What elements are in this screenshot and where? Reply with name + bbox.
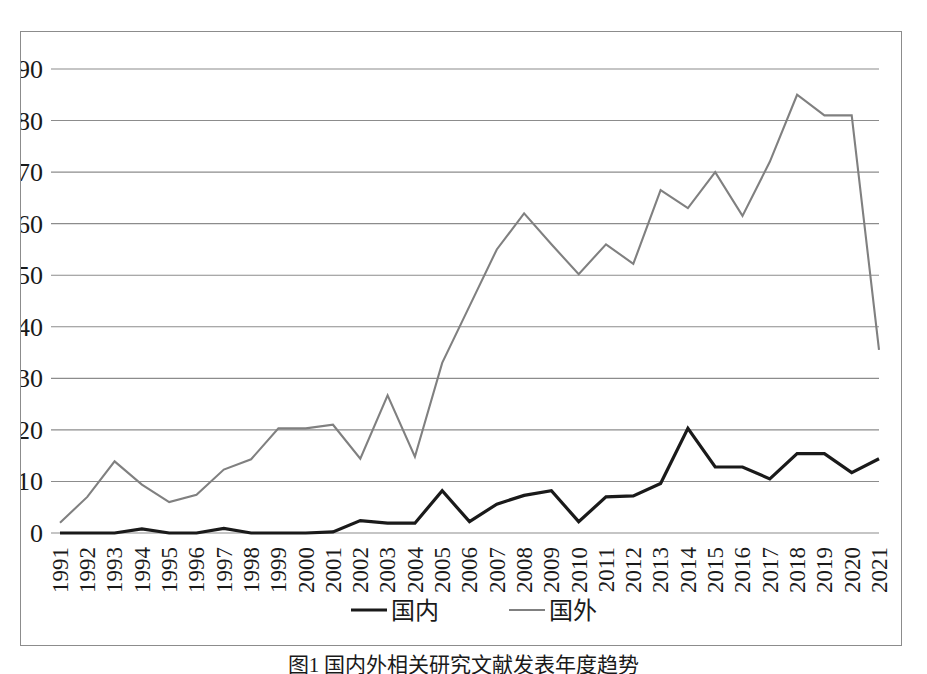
x-axis-tick-label: 1991 bbox=[48, 547, 73, 593]
x-axis-tick-label: 2014 bbox=[676, 547, 701, 594]
y-axis-tick-label: 40 bbox=[21, 313, 43, 342]
x-axis-tick-label: 1999 bbox=[266, 547, 291, 593]
y-axis-tick-label: 0 bbox=[30, 519, 43, 548]
x-axis-tick-label: 2003 bbox=[375, 547, 400, 593]
y-axis-tick-label: 60 bbox=[21, 210, 43, 239]
x-axis-tick-label: 1996 bbox=[184, 547, 209, 593]
legend-label-国外[interactable]: 国外 bbox=[549, 598, 597, 624]
y-axis-tick-label: 20 bbox=[21, 416, 43, 445]
x-axis-tick-label: 1998 bbox=[239, 547, 264, 593]
figure-container: 0102030405060708090199119921993199419951… bbox=[0, 0, 927, 674]
x-axis-tick-label: 2019 bbox=[812, 547, 837, 593]
y-axis-tick-label: 70 bbox=[21, 158, 43, 187]
x-axis-tick-label: 2002 bbox=[348, 547, 373, 593]
x-axis-tick-label: 2011 bbox=[594, 547, 619, 592]
x-axis-tick-label: 2009 bbox=[539, 547, 564, 593]
y-axis-tick-label: 10 bbox=[21, 467, 43, 496]
x-axis-tick-label: 2013 bbox=[648, 547, 673, 593]
x-axis-tick-label: 2015 bbox=[703, 547, 728, 593]
chart-frame: 0102030405060708090199119921993199419951… bbox=[20, 31, 902, 646]
y-axis-tick-label: 90 bbox=[21, 55, 43, 84]
x-axis-tick-label: 2001 bbox=[321, 547, 346, 593]
x-axis-tick-label: 2006 bbox=[457, 547, 482, 593]
y-axis-tick-label: 50 bbox=[21, 261, 43, 290]
x-axis-tick-label: 2005 bbox=[430, 547, 455, 593]
x-axis-tick-label: 2007 bbox=[485, 547, 510, 593]
series-line-国外 bbox=[60, 95, 879, 523]
x-axis-tick-label: 1995 bbox=[157, 547, 182, 593]
x-axis-tick-label: 1993 bbox=[102, 547, 127, 593]
line-chart: 0102030405060708090199119921993199419951… bbox=[21, 32, 901, 645]
x-axis-tick-label: 1997 bbox=[212, 547, 237, 593]
x-axis-tick-label: 2008 bbox=[512, 547, 537, 593]
legend-label-国内[interactable]: 国内 bbox=[391, 598, 439, 624]
x-axis-tick-label: 2016 bbox=[730, 547, 755, 593]
x-axis-tick-label: 2020 bbox=[840, 547, 865, 593]
figure-caption: 图1 国内外相关研究文献发表年度趋势 bbox=[0, 650, 927, 674]
y-axis-tick-label: 30 bbox=[21, 364, 43, 393]
x-axis-tick-label: 2012 bbox=[621, 547, 646, 593]
x-axis-tick-label: 1992 bbox=[75, 547, 100, 593]
x-axis-tick-label: 2004 bbox=[403, 547, 428, 594]
x-axis-tick-label: 2018 bbox=[785, 547, 810, 593]
x-axis-tick-label: 2021 bbox=[867, 547, 892, 593]
y-axis-tick-label: 80 bbox=[21, 107, 43, 136]
x-axis-tick-label: 2017 bbox=[758, 547, 783, 593]
x-axis-tick-label: 2000 bbox=[294, 547, 319, 593]
series-line-国内 bbox=[60, 428, 879, 533]
x-axis-tick-label: 1994 bbox=[130, 547, 155, 594]
x-axis-tick-label: 2010 bbox=[567, 547, 592, 593]
